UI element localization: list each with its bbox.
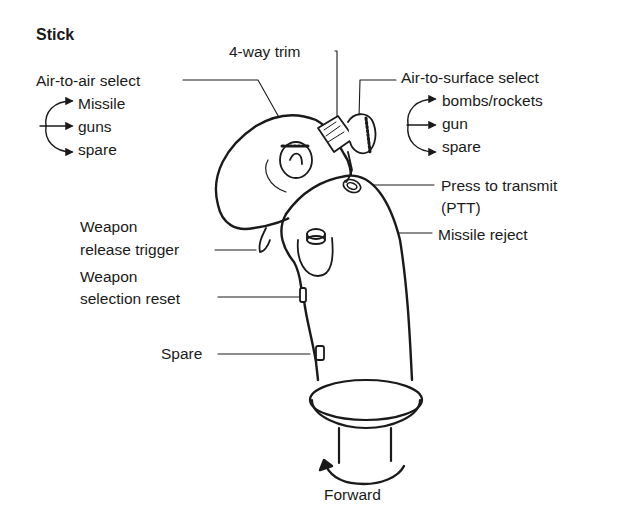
stick-grip-body-icon (281, 176, 412, 380)
air-to-surface-select-knob-icon (346, 114, 375, 182)
weapon-selection-reset-button-icon (300, 288, 306, 302)
spare-button-icon (316, 346, 324, 360)
air-to-surface-cycle-arrows-icon (407, 99, 435, 152)
joystick-illustration (0, 0, 624, 529)
air-to-air-cycle-arrows-icon (40, 100, 72, 152)
stick-base-collar-icon (310, 380, 422, 463)
forward-rotation-arrow-icon (320, 460, 404, 484)
weapon-release-trigger-icon (259, 228, 270, 252)
